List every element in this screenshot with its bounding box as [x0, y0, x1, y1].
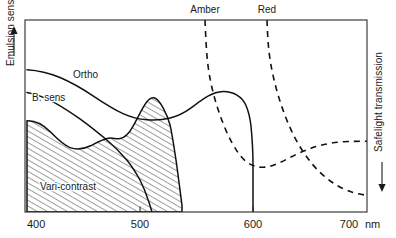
- ortho-curve-label: Ortho: [73, 69, 98, 80]
- right-axis-group: Safelight transmission: [373, 52, 386, 192]
- x-tick-label-700: 700: [340, 218, 358, 230]
- arrow-down-icon: [378, 184, 385, 192]
- x-tick-label-500: 500: [131, 218, 149, 230]
- right-axis-title: Safelight transmission: [373, 52, 384, 152]
- b-sens-curve-label: B. sens: [32, 92, 65, 103]
- x-tick-label-400: 400: [27, 218, 45, 230]
- vari-contrast-curve-label: Vari-contrast: [40, 181, 96, 192]
- x-tick-label-600: 600: [244, 218, 262, 230]
- chart-canvas: 400 500 600 700 nm Amber Red Emulsion se…: [0, 0, 396, 238]
- chart-figure: 400 500 600 700 nm Amber Red Emulsion se…: [0, 0, 396, 238]
- amber-label: Amber: [190, 4, 220, 15]
- red-label: Red: [258, 4, 276, 15]
- left-axis-group: Emulsion sensitivity: [5, 0, 18, 66]
- x-unit-label: nm: [365, 218, 380, 230]
- left-axis-title: Emulsion sensitivity: [5, 0, 16, 66]
